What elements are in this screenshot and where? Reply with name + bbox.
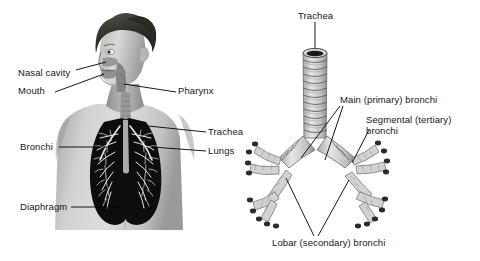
label-pharynx: Pharynx (178, 85, 214, 96)
label-trachea-right: Trachea (298, 10, 333, 21)
label-diaphragm: Diaphragm (20, 201, 67, 212)
label-trachea-left: Trachea (208, 126, 243, 137)
label-lobar-secondary-bronchi: Lobar (secondary) bronchi (272, 237, 385, 248)
label-lungs: Lungs (208, 145, 234, 156)
label-bronchi: Bronchi (20, 141, 53, 152)
label-mouth: Mouth (18, 85, 45, 96)
trachea-lumen (307, 51, 324, 57)
pupil (107, 50, 110, 53)
label-nasal-cavity: Nasal cavity (18, 67, 70, 78)
trachea-neck-shape (120, 92, 131, 122)
respiratory-system-figure: Nasal cavity Mouth Pharynx Trachea Lungs… (0, 0, 480, 261)
mediastinum (123, 120, 129, 174)
label-segmental-tertiary-bronchi: Segmental (tertiary) bronchi (366, 114, 464, 136)
label-main-primary-bronchi: Main (primary) bronchi (340, 94, 437, 105)
